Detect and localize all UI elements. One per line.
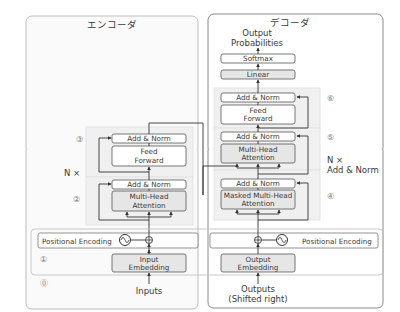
svg-text:Add & Norm: Add & Norm bbox=[127, 180, 171, 189]
svg-text:Forward: Forward bbox=[244, 114, 273, 123]
encoder-n-times: N × bbox=[64, 168, 80, 178]
outputs-sub-label: (Shifted right) bbox=[228, 294, 287, 304]
svg-text:Attention: Attention bbox=[132, 201, 165, 210]
transformer-diagram: エンコーダ デコーダ Add & Norm Feed Forward Add &… bbox=[0, 0, 400, 312]
svg-text:Attention: Attention bbox=[241, 153, 274, 162]
svg-text:Feed: Feed bbox=[140, 147, 157, 156]
mark-5: ⑤ bbox=[327, 133, 334, 142]
decoder-n-times-sub: Add & Norm bbox=[327, 165, 379, 175]
svg-text:Add & Norm: Add & Norm bbox=[236, 132, 280, 141]
svg-text:Embedding: Embedding bbox=[238, 263, 279, 272]
svg-text:Add & Norm: Add & Norm bbox=[236, 179, 280, 188]
svg-text:Attention: Attention bbox=[241, 199, 274, 208]
output-probabilities: Output bbox=[242, 28, 272, 38]
svg-text:Positional Encoding: Positional Encoding bbox=[42, 237, 112, 246]
mark-6: ⑥ bbox=[327, 94, 334, 103]
svg-text:Embedding: Embedding bbox=[129, 263, 170, 272]
svg-text:Forward: Forward bbox=[135, 156, 164, 165]
mark-2: ② bbox=[73, 195, 80, 204]
svg-text:Softmax: Softmax bbox=[243, 54, 274, 63]
svg-text:Add & Norm: Add & Norm bbox=[127, 134, 171, 143]
svg-text:Linear: Linear bbox=[247, 70, 269, 79]
svg-text:Positional Encoding: Positional Encoding bbox=[302, 237, 372, 246]
outputs-label: Outputs bbox=[241, 284, 276, 294]
mark-3: ③ bbox=[76, 135, 83, 144]
decoder-title: デコーダ bbox=[270, 17, 310, 28]
svg-text:Add & Norm: Add & Norm bbox=[236, 93, 280, 102]
inputs-label: Inputs bbox=[136, 286, 163, 296]
mark-1: ① bbox=[40, 255, 47, 264]
mark-0: ⓪ bbox=[40, 279, 48, 288]
encoder-title: エンコーダ bbox=[87, 19, 137, 30]
svg-text:Probabilities: Probabilities bbox=[231, 38, 283, 48]
decoder-n-times: N × bbox=[327, 155, 343, 165]
svg-text:Multi-Head: Multi-Head bbox=[130, 192, 169, 201]
mark-4: ④ bbox=[327, 192, 334, 201]
